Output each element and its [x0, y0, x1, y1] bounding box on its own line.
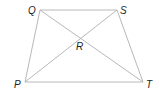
label-r: R: [76, 41, 83, 52]
trapezoid-diagram: Q S R P T: [0, 0, 160, 97]
segment-pq: [25, 10, 40, 82]
label-s: S: [120, 5, 127, 16]
segment-qt: [40, 10, 143, 82]
label-p: P: [14, 79, 21, 90]
label-t: T: [146, 79, 153, 90]
segment-st: [117, 10, 143, 82]
segment-ps: [25, 10, 117, 82]
label-q: Q: [28, 5, 36, 16]
segments: [25, 10, 143, 82]
